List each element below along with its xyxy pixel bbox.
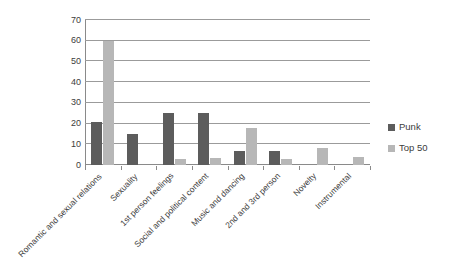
bar-top-50[interactable] [317, 148, 328, 165]
bar-top-50[interactable] [175, 159, 186, 165]
bar-punk[interactable] [127, 134, 138, 165]
bar-chart: 010203040506070 Romantic and sexual rela… [0, 0, 449, 276]
y-tick-label-30: 30 [59, 98, 81, 107]
y-tick-label-60: 60 [59, 36, 81, 45]
y-tick-label-70: 70 [59, 16, 81, 25]
x-tick-mark [121, 166, 122, 170]
bar-group [85, 20, 121, 165]
bar-top-50[interactable] [210, 158, 221, 165]
y-tick-label-20: 20 [59, 119, 81, 128]
bar-punk[interactable] [234, 151, 245, 166]
bar-group [228, 20, 264, 165]
y-tick-label-50: 50 [59, 57, 81, 66]
bar-group [192, 20, 228, 165]
x-tick-mark [228, 166, 229, 170]
x-category-label: Novelty [291, 171, 318, 198]
y-tick-label-0: 0 [59, 161, 81, 170]
x-tick-mark [192, 166, 193, 170]
bar-punk[interactable] [163, 113, 174, 165]
bar-group [156, 20, 192, 165]
chart-legend: Punk Top 50 [388, 122, 446, 164]
legend-swatch-top50-icon [388, 145, 395, 152]
legend-item-punk[interactable]: Punk [388, 122, 446, 132]
x-tick-mark [299, 166, 300, 170]
x-tick-mark [156, 166, 157, 170]
bar-top-50[interactable] [281, 159, 292, 165]
x-tick-mark [263, 166, 264, 170]
x-category-label: Instrumental [313, 171, 353, 211]
x-tick-mark [334, 166, 335, 170]
bar-punk[interactable] [198, 113, 209, 165]
x-category-label: Romantic and sexual relations [16, 171, 104, 259]
x-tick-mark [85, 166, 86, 170]
bar-top-50[interactable] [246, 128, 257, 165]
x-tick-mark [370, 166, 371, 170]
bar-punk[interactable] [91, 122, 102, 166]
bar-top-50[interactable] [353, 157, 364, 165]
y-axis-tick-labels: 010203040506070 [55, 20, 81, 165]
y-tick-label-40: 40 [59, 78, 81, 87]
bar-group [121, 20, 157, 165]
legend-label-top50: Top 50 [399, 143, 428, 153]
bar-group [334, 20, 370, 165]
legend-item-top50[interactable]: Top 50 [388, 143, 446, 153]
plot-area [85, 20, 370, 165]
x-category-label: Sexuality [108, 171, 139, 202]
legend-swatch-punk-icon [388, 124, 395, 131]
x-axis-tick-marks [85, 166, 370, 171]
y-tick-label-10: 10 [59, 140, 81, 149]
bar-group [263, 20, 299, 165]
bar-group [299, 20, 335, 165]
bar-punk[interactable] [269, 151, 280, 166]
legend-label-punk: Punk [399, 122, 421, 132]
bar-top-50[interactable] [103, 41, 114, 165]
